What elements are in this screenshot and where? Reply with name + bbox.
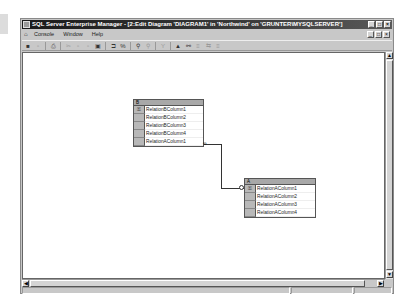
toolbar-separator <box>60 42 61 50</box>
table-properties-icon[interactable]: ▣ <box>94 42 102 50</box>
manage-indexes-icon[interactable]: ≡ <box>194 42 202 50</box>
column-name: RelationAColumn1 <box>145 138 203 146</box>
table-row[interactable]: RelationAColumn1 <box>134 138 203 146</box>
app-icon <box>23 21 30 28</box>
zoom-icon[interactable]: ⚲ <box>134 42 142 50</box>
toolbar-separator <box>130 42 131 50</box>
close-button[interactable]: × <box>384 21 391 28</box>
table-b[interactable]: B ⚿ RelationBColumn1 RelationBColumn2 Re… <box>133 99 204 147</box>
row-selector <box>134 130 145 138</box>
menu-help[interactable]: Help <box>92 30 103 39</box>
new-table-icon[interactable]: ▫ <box>34 42 42 50</box>
title-bar[interactable]: SQL Server Enterprise Manager - [2:Edit … <box>22 20 392 29</box>
mdi-restore-button[interactable]: □ <box>375 31 382 38</box>
status-pane-main <box>22 287 290 294</box>
print-icon[interactable]: ⎙ <box>49 42 57 50</box>
column-name: RelationAColumn1 <box>256 185 315 193</box>
many-end-icon: ∞ <box>203 140 207 146</box>
horizontal-scrollbar[interactable]: ◀ ▶ <box>22 279 385 287</box>
mdi-close-button[interactable]: × <box>383 31 390 38</box>
row-selector <box>134 114 145 122</box>
manage-constraints-icon[interactable]: ≡ <box>214 42 222 50</box>
mdi-controls: _ □ × <box>367 31 390 38</box>
row-selector <box>245 193 256 201</box>
toolbar: ■ ▫ ⎙ ✂ ▫ ▫ ▣ ⊐ % ⚲ ⚲ Y ▲ ⚯ ≡ ⇆ ≡ <box>22 40 392 51</box>
status-pane-2 <box>291 287 353 294</box>
add-table-icon[interactable]: ⊐ <box>109 42 117 50</box>
table-row[interactable]: RelationBColumn4 <box>134 130 203 138</box>
manage-relationships-icon[interactable]: ⇆ <box>204 42 212 50</box>
row-selector <box>245 201 256 209</box>
table-row[interactable]: RelationBColumn2 <box>134 114 203 122</box>
horizontal-scroll-thumb[interactable] <box>30 280 365 287</box>
toolbar-separator <box>105 42 106 50</box>
window-title: SQL Server Enterprise Manager - [2:Edit … <box>32 21 342 27</box>
enterprise-manager-window: SQL Server Enterprise Manager - [2:Edit … <box>20 18 394 294</box>
key-icon: ⚿ <box>245 185 256 193</box>
table-row[interactable]: RelationAColumn4 <box>245 209 315 217</box>
table-row[interactable]: RelationAColumn2 <box>245 193 315 201</box>
scroll-right-button[interactable]: ▶ <box>377 280 384 287</box>
window-controls: _ □ × <box>368 21 391 28</box>
diagram-canvas[interactable]: B ⚿ RelationBColumn1 RelationBColumn2 Re… <box>22 52 385 279</box>
mdi-minimize-button[interactable]: _ <box>367 31 374 38</box>
add-related-tables-icon[interactable]: % <box>119 42 127 50</box>
vertical-scroll-thumb[interactable] <box>386 60 393 270</box>
maximize-button[interactable]: □ <box>376 21 383 28</box>
column-name: RelationBColumn4 <box>145 130 203 138</box>
row-selector <box>134 122 145 130</box>
vertical-scrollbar[interactable]: ▲ ▼ <box>385 52 393 279</box>
toolbar-separator <box>170 42 171 50</box>
row-selector <box>245 209 256 217</box>
paste-icon[interactable]: ▫ <box>84 42 92 50</box>
zoom-out-icon[interactable]: ⚲ <box>144 42 152 50</box>
desktop-side-tab <box>0 14 8 34</box>
table-row[interactable]: ⚿ RelationBColumn1 <box>134 106 203 114</box>
document-icon[interactable]: ⌂ <box>24 31 31 38</box>
relationship-line[interactable] <box>221 144 222 189</box>
column-name: RelationBColumn1 <box>145 106 203 114</box>
row-selector <box>134 138 145 146</box>
copy-icon[interactable]: ▫ <box>74 42 82 50</box>
column-name: RelationAColumn2 <box>256 193 315 201</box>
scroll-left-button[interactable]: ◀ <box>22 280 29 287</box>
column-name: RelationAColumn4 <box>256 209 315 217</box>
table-a[interactable]: A ⚿ RelationAColumn1 RelationAColumn2 Re… <box>244 178 316 218</box>
table-row[interactable]: RelationAColumn3 <box>245 201 315 209</box>
minimize-button[interactable]: _ <box>368 21 375 28</box>
column-name: RelationBColumn2 <box>145 114 203 122</box>
scroll-up-button[interactable]: ▲ <box>386 52 393 59</box>
menu-bar: ⌂ Console Window Help _ □ × <box>22 30 392 39</box>
status-bar <box>22 287 392 294</box>
new-text-annotation-icon[interactable]: ⚯ <box>184 42 192 50</box>
status-pane-3 <box>354 287 392 294</box>
toolbar-separator <box>45 42 46 50</box>
column-name: RelationAColumn3 <box>256 201 315 209</box>
scroll-down-button[interactable]: ▼ <box>386 271 393 278</box>
show-relationship-labels-icon[interactable]: ▲ <box>174 42 182 50</box>
key-icon: ⚿ <box>134 106 145 114</box>
menu-console[interactable]: Console <box>34 30 54 39</box>
table-row[interactable]: ⚿ RelationAColumn1 <box>245 185 315 193</box>
save-icon[interactable]: ■ <box>24 42 32 50</box>
arrange-tables-icon[interactable]: Y <box>159 42 167 50</box>
toolbar-separator <box>155 42 156 50</box>
menu-window[interactable]: Window <box>63 30 83 39</box>
column-name: RelationBColumn3 <box>145 122 203 130</box>
cut-icon[interactable]: ✂ <box>64 42 72 50</box>
table-row[interactable]: RelationBColumn3 <box>134 122 203 130</box>
